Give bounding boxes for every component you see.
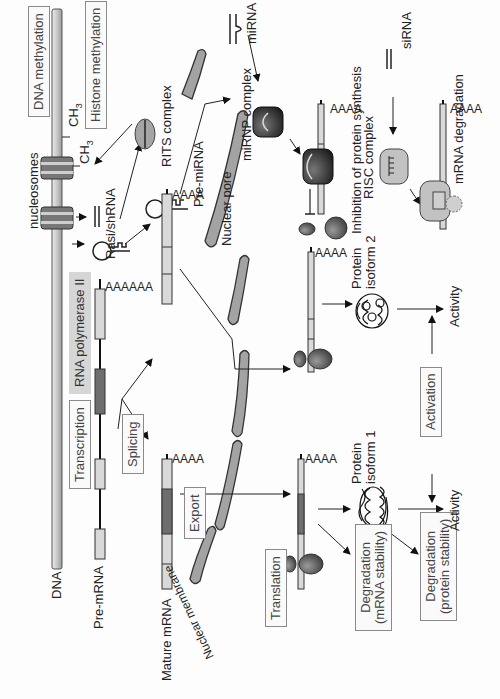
activity-2-label: Activity [448, 286, 462, 327]
protein-isoform-1-label: Protein isoform 1 [350, 431, 377, 484]
mature-mrna-label: Mature mRNA [160, 599, 174, 681]
dna-methylation-label: DNA methylation [28, 6, 50, 117]
polya-translating-mrna-2: AAAA [315, 247, 347, 260]
polya-mature-mrna-2: AAAA [172, 189, 204, 202]
mrna-inhibited [299, 100, 347, 239]
polya-translating-mrna-1: AAAA [305, 453, 337, 466]
activity-1-label: Activity [448, 490, 462, 531]
translating-mrna-1 [284, 454, 323, 589]
transcription-label: Transcription [69, 400, 91, 489]
hairpin-nuclear [72, 242, 130, 260]
translation-label: Translation [265, 549, 287, 627]
pre-mrna-shape [95, 279, 105, 559]
ch3-label-dna: CH3 [67, 103, 84, 127]
nucleosome-1 [41, 207, 73, 229]
nucleosomes-label: nucleosomes [27, 152, 41, 229]
nucleosome-2 [41, 157, 73, 179]
mrna-degradation-label: mRNA degradation [452, 74, 466, 184]
rits-complex-label: RITS complex [160, 85, 174, 167]
mirnp-complex-label: miRNP complex [240, 68, 254, 161]
dna-label: DNA [50, 572, 64, 599]
polya-pre-mrna: AAAAAA [105, 281, 153, 294]
rasi-shrna-label: Rasi/shRNA [104, 188, 118, 259]
degradation-mrna-label: Degradation (mRNA stability) [355, 524, 392, 631]
splicing-label: Splicing [122, 414, 144, 474]
risc-complex-shape [380, 149, 408, 184]
mature-mrna-2 [162, 189, 172, 304]
histone-methylation-label: Histone methylation [85, 1, 107, 129]
risc-complex-label: RISC complex [362, 116, 376, 199]
sirna-label: siRNA [400, 12, 414, 49]
rits-complex-shape [135, 119, 155, 149]
mirna-shape [230, 14, 241, 44]
pre-mrna-label: Pre-mRNA [92, 566, 106, 629]
protein-isoform-2-shape [356, 294, 388, 328]
export-label: Export [184, 487, 206, 539]
activation-label: Activation [420, 367, 442, 437]
mirna-label: miRNA [245, 3, 259, 44]
nuclear-pore-label: Nuclear pore [220, 172, 234, 246]
dna-strand [52, 9, 62, 569]
polya-mature-mrna-1: AAAA [172, 453, 204, 466]
gene-regulation-diagram: DNA methylation Histone methylation CH3 … [0, 0, 500, 699]
translating-mrna-2 [294, 247, 332, 372]
ch3-label-histone: CH3 [78, 140, 95, 164]
rna-polymerase-label: RNA polymerase II [69, 272, 91, 394]
polya-degraded-mrna: AAAA [450, 103, 482, 116]
sirna-shape [387, 49, 391, 69]
polya-inhibited-mrna: AAAA [330, 103, 362, 116]
protein-isoform-2-label: Protein isoform 2 [350, 236, 377, 289]
mirnp-complex-shape [253, 107, 283, 137]
